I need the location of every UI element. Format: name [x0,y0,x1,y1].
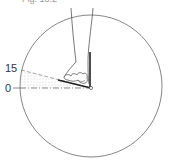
label-0: 0 [5,82,11,94]
pivot-point [89,86,92,89]
goniometer-diagram: 15 0 [0,0,174,164]
label-15: 15 [5,62,17,74]
